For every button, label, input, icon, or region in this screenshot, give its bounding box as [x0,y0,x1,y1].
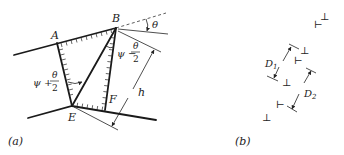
panel-a: A B E F θ h ψ − θ 2 ψ + θ 2 (a) [8,12,168,148]
theta-ray-line [118,29,168,34]
dislocation-side-2: ⊢ [294,55,303,66]
d1-arrow-top [283,47,291,61]
point-label-e: E [67,111,76,124]
d1-label: D1 [264,58,278,71]
d2-arrow-bottom [292,94,299,109]
dislocation-side-1: ⊢ [314,19,323,30]
svg-text:ψ +: ψ + [33,77,52,88]
edge-ae [57,43,72,106]
svg-text:θ: θ [52,70,58,80]
point-label-a: A [50,29,59,42]
panel-label-b: (b) [235,135,251,148]
svg-text:2: 2 [133,54,139,64]
upper-boundary-line [14,28,116,55]
hatch-ae [59,49,73,95]
d2-tick-top [306,68,316,73]
psi-plus-arc [68,82,82,84]
dislocation-up-4: ⊥ [262,112,271,123]
panel-label-a: (a) [8,135,23,148]
dislocation-up-3: ⊥ [282,77,291,88]
panel-b: ⊥ ⊢ ⊥ ⊢ ⊥ ⊢ ⊥ D1 D2 (b) [235,11,329,148]
d1-tick-bottom [267,76,278,81]
dislocation-side-3: ⊢ [276,99,285,110]
svg-text:2: 2 [52,83,58,93]
diagram-canvas: A B E F θ h ψ − θ 2 ψ + θ 2 (a) ⊥ ⊢ ⊥ ⊢ … [0,0,344,155]
h-label: h [138,86,145,99]
dashed-extension-line [116,13,166,28]
svg-text:θ: θ [133,41,139,51]
point-label-b: B [111,12,120,25]
label-psi-plus-theta-half: ψ + θ 2 [33,70,59,93]
d2-label: D2 [303,88,317,101]
label-psi-minus-theta-half: ψ − θ 2 [117,41,140,64]
point-label-f: F [108,93,117,106]
theta-arc [146,19,148,31]
theta-label: θ [152,19,158,30]
d2-arrow-top [304,71,311,83]
